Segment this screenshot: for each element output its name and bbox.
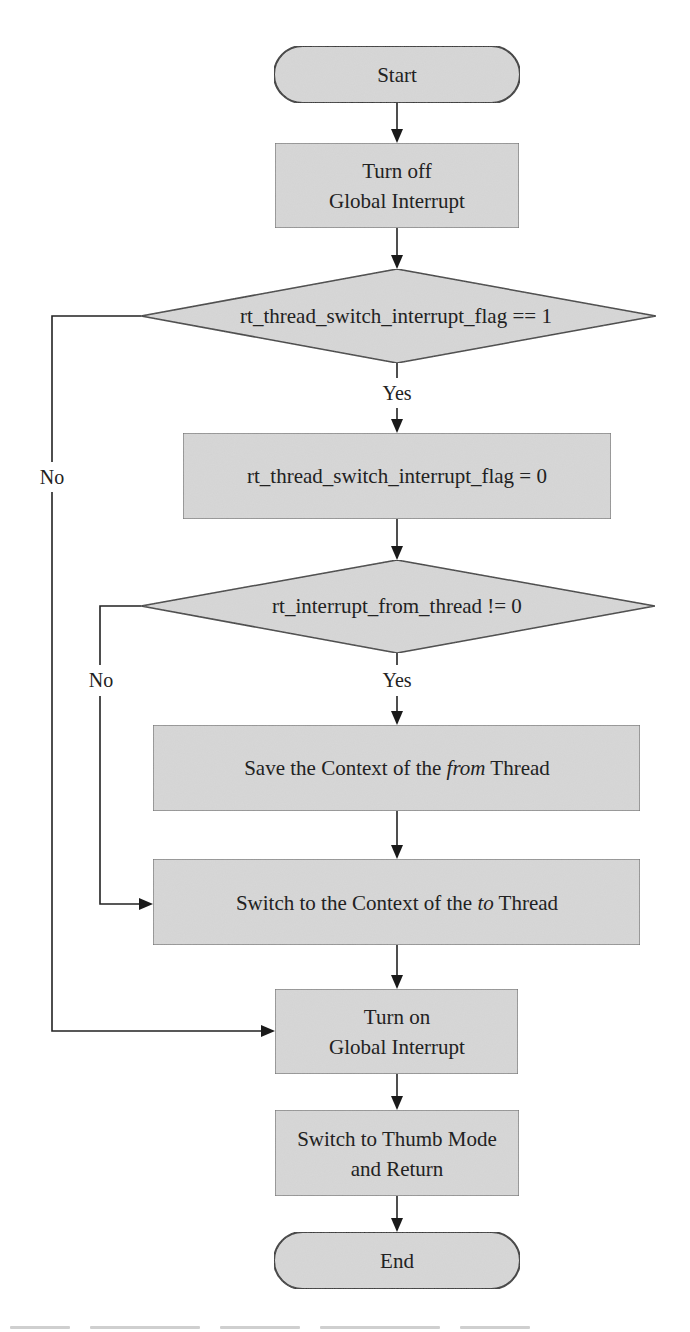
node-turn-off-line1: Turn off bbox=[362, 159, 431, 183]
edge-decision2-no-lower bbox=[100, 696, 141, 904]
node-save-context: Save the Context of the from Thread bbox=[153, 725, 640, 811]
branch-label-yes-1: Yes bbox=[382, 382, 411, 404]
arrowhead-icon bbox=[391, 255, 403, 269]
branch-label-no-1: No bbox=[40, 466, 64, 488]
arrowhead-icon bbox=[391, 1096, 403, 1110]
arrowhead-icon bbox=[391, 845, 403, 859]
arrowhead-icon bbox=[391, 1218, 403, 1232]
arrowhead-icon bbox=[391, 711, 403, 725]
edge-decision1-no bbox=[52, 316, 141, 462]
node-end: End bbox=[274, 1232, 520, 1289]
node-decision2-label: rt_interrupt_from_thread != 0 bbox=[272, 594, 522, 618]
node-start-label: Start bbox=[377, 63, 417, 87]
arrowhead-icon bbox=[391, 129, 403, 143]
node-decision-from-thread: rt_interrupt_from_thread != 0 bbox=[141, 560, 655, 653]
node-switch-context: Switch to the Context of the to Thread bbox=[153, 859, 640, 945]
node-thumb-mode-return: Switch to Thumb Mode and Return bbox=[275, 1110, 519, 1196]
arrowhead-icon bbox=[391, 975, 403, 989]
branch-label-yes-2: Yes bbox=[382, 669, 411, 691]
cropped-text-residue bbox=[0, 1318, 690, 1332]
arrowhead-icon bbox=[139, 898, 153, 910]
node-thumb-line1: Switch to Thumb Mode bbox=[297, 1127, 497, 1151]
node-turn-on-line2: Global Interrupt bbox=[329, 1035, 465, 1059]
edge-decision2-no bbox=[100, 606, 141, 665]
arrowhead-icon bbox=[391, 419, 403, 433]
node-decision-switch-flag: rt_thread_switch_interrupt_flag == 1 bbox=[141, 269, 656, 363]
node-turn-off-line2: Global Interrupt bbox=[329, 189, 465, 213]
node-turn-on-line1: Turn on bbox=[364, 1005, 431, 1029]
node-save-context-label: Save the Context of the from Thread bbox=[244, 756, 550, 780]
node-end-label: End bbox=[380, 1249, 414, 1273]
node-clear-switch-flag: rt_thread_switch_interrupt_flag = 0 bbox=[183, 433, 611, 519]
arrowhead-icon bbox=[261, 1025, 275, 1037]
flowchart: Start Turn off Global Interrupt rt_threa… bbox=[0, 0, 690, 1332]
node-turn-on-interrupt: Turn on Global Interrupt bbox=[275, 989, 518, 1074]
node-turn-off-interrupt: Turn off Global Interrupt bbox=[275, 143, 519, 228]
node-switch-context-label: Switch to the Context of the to Thread bbox=[236, 891, 559, 915]
node-start: Start bbox=[274, 46, 520, 103]
node-thumb-line2: and Return bbox=[351, 1157, 444, 1181]
arrowhead-icon bbox=[391, 546, 403, 560]
branch-label-no-2: No bbox=[89, 669, 113, 691]
node-decision1-label: rt_thread_switch_interrupt_flag == 1 bbox=[240, 304, 552, 328]
node-set-flag-label: rt_thread_switch_interrupt_flag = 0 bbox=[247, 464, 547, 488]
